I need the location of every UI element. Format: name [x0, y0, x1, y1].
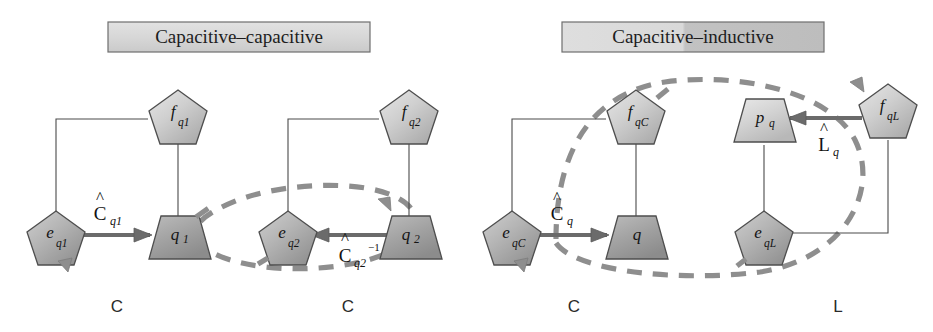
node-label-q1-base: q	[171, 225, 180, 244]
node-e-q2[interactable]: e q2	[259, 211, 317, 265]
panel-header-capacitive-inductive: Capacitive–inductive	[562, 22, 824, 52]
gain-label-c-q1: ^ C q1	[94, 188, 122, 228]
bond-graph-diagram: Capacitive–capacitive Capacitive–inducti…	[0, 0, 933, 332]
dash-stub-eqL	[737, 259, 746, 266]
gain-base-c-q2: C	[339, 245, 352, 266]
node-label-e-q1-sub: q1	[56, 237, 68, 250]
half-arrow-eq1-q1	[134, 228, 152, 242]
node-label-e-q1-base: e	[46, 223, 54, 242]
panel-header-capacitive-capacitive: Capacitive–capacitive	[108, 22, 370, 52]
gain-sub-c-q: q	[567, 214, 573, 228]
node-p-q[interactable]: p q	[734, 99, 796, 142]
dashed-bond-loop-right	[556, 79, 863, 275]
node-label-p-q-base: p	[755, 108, 765, 127]
node-q2[interactable]: q 2	[380, 216, 442, 259]
gain-label-l-q: ^ L q	[818, 119, 839, 159]
dash-stub-eq2	[258, 258, 268, 264]
foot-label-right-c: C	[342, 297, 354, 316]
section-left-c: f q1 e q1 q 1 ^ C q1	[27, 90, 416, 316]
node-label-e-q2-base: e	[278, 223, 286, 242]
gain-base-c-q: C	[551, 203, 564, 224]
panel-title-1: Capacitive–capacitive	[155, 26, 323, 47]
node-f-qL[interactable]: f qL	[859, 84, 917, 138]
half-arrow-eqC-q	[591, 228, 609, 242]
section-right-l: f qL e qL p q ^ L q	[734, 77, 917, 316]
node-e-q1[interactable]: e q1	[27, 211, 85, 265]
node-label-e-qL-sub: qL	[764, 237, 776, 250]
gain-label-c-q: ^ C q	[551, 188, 573, 228]
gain-sub-c-q2: q2	[354, 256, 366, 270]
dash-arrow-into-q2	[378, 197, 391, 211]
gain-sub-c-q1: q1	[110, 214, 122, 228]
dash-stub-fqC	[657, 89, 668, 98]
node-e-qL[interactable]: e qL	[735, 211, 793, 265]
node-label-q2-sub: 2	[414, 233, 420, 245]
node-e-qC[interactable]: e qC	[483, 211, 541, 265]
node-f-q1[interactable]: f q1	[149, 90, 207, 144]
foot-label-left-c2: C	[568, 297, 580, 316]
node-q[interactable]: q	[606, 216, 668, 259]
section-right-c: f q2 e q2 q 2 ^ C q2	[258, 90, 442, 316]
panel-title-2: Capacitive–inductive	[612, 26, 773, 47]
node-label-f-qC-sub: qC	[635, 116, 649, 129]
node-label-f-q2-sub: q2	[409, 116, 421, 129]
dash-arrow-into-fqL	[850, 77, 864, 92]
figure-canvas: Capacitive–capacitive Capacitive–inducti…	[0, 0, 933, 332]
node-label-q1-sub: 1	[183, 233, 189, 245]
node-label-q-base: q	[633, 225, 642, 244]
foot-label-left-c: C	[111, 297, 123, 316]
node-label-q2-base: q	[402, 225, 411, 244]
node-label-e-q2-sub: q2	[288, 237, 300, 250]
wire-fq2-to-eq2	[288, 119, 379, 219]
node-label-e-qL-base: e	[754, 223, 762, 242]
gain-sup-c-q2: −1	[368, 241, 380, 253]
node-label-e-qC-sub: qC	[512, 237, 526, 250]
node-label-e-qC-base: e	[502, 223, 510, 242]
gain-base-l-q: L	[818, 134, 830, 155]
gain-base-c-q1: C	[94, 203, 107, 224]
gain-sub-l-q: q	[833, 145, 839, 159]
node-label-f-q1-sub: q1	[178, 116, 190, 129]
node-f-q2[interactable]: f q2	[380, 90, 438, 144]
foot-label-right-l: L	[833, 297, 842, 316]
trapezoid-shape-p-q	[734, 99, 796, 142]
node-label-f-qL-sub: qL	[887, 110, 899, 123]
node-label-p-q-sub: q	[769, 117, 775, 130]
trapezoid-shape-q2	[380, 216, 442, 259]
wire-fqL-to-eqL	[790, 140, 888, 233]
